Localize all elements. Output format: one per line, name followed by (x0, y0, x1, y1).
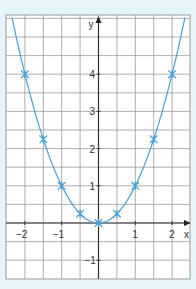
y-tick-label: 1 (90, 181, 96, 192)
x-tick-label: −2 (16, 229, 28, 240)
y-tick-label: 3 (90, 106, 96, 117)
x-axis-label: x (184, 229, 189, 240)
y-tick-label: −1 (85, 255, 97, 266)
x-tick-label: −1 (53, 229, 65, 240)
parabola-chart: xy−2−112−11234 (0, 0, 196, 289)
x-tick-label: 2 (169, 229, 175, 240)
y-tick-label: 2 (90, 144, 96, 155)
y-axis-label: y (89, 19, 94, 30)
y-tick-label: 4 (90, 69, 96, 80)
x-tick-label: 1 (132, 229, 138, 240)
